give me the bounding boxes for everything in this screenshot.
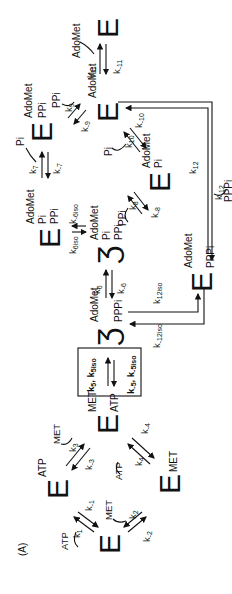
enzyme-iso-adomet-pi-ppi: Ʒ [91, 246, 124, 264]
bound-pi-4: Pi [37, 215, 48, 224]
enzyme-met-atp: E [91, 414, 124, 434]
bound-ppi-4: PPi [49, 208, 60, 224]
arrow-km1 [78, 512, 98, 527]
arrow-km4 [132, 438, 154, 458]
bound-met: MET [168, 451, 179, 472]
panel-label: (A) [17, 543, 28, 556]
km4-label: k-4 [139, 423, 151, 434]
k6-label: k6 [91, 285, 103, 294]
bound-adomet-4: AdoMet [25, 189, 36, 224]
km1-label: k-1 [83, 500, 95, 511]
bound-pi-3: Pi [101, 231, 112, 240]
enzyme-adomet-pi-ppi: E [33, 228, 66, 248]
ligand-atp-1: ATP [59, 532, 70, 550]
enzyme-final: E [91, 18, 124, 38]
km3-label: k-3 [83, 459, 95, 470]
ligand-pi-10: Pi [103, 147, 114, 156]
enzyme-adomet-pi: E [143, 172, 176, 192]
k2-label: k2 [127, 510, 139, 519]
ligand-curve-met-2 [61, 438, 72, 444]
k12-label: k12 [187, 161, 199, 174]
ligand-curve-adomet [80, 42, 94, 54]
k1-label: k1 [71, 529, 83, 538]
enzyme-iso-adomet-pppi: Ʒ [91, 328, 124, 346]
k12iso-label: k12iso [151, 282, 163, 304]
bound-adomet-2: AdoMet [183, 233, 194, 268]
ligand-met-1: MET [103, 500, 114, 520]
ligand-pppi: PPPi [223, 180, 232, 202]
k7-label: k7 [27, 165, 39, 174]
bound-adomet-3: AdoMet [89, 205, 100, 240]
ligand-ppi-8: PPi [117, 210, 128, 226]
bound-pppi-1: PPPi [113, 300, 124, 322]
bound-pppi-2: PPPi [205, 246, 216, 268]
k5-reverse-label: k-5, k-5iso [125, 356, 137, 394]
enzyme-atp: E [41, 479, 74, 499]
k3-label: k3 [67, 443, 79, 452]
enzyme-met: E [153, 474, 186, 494]
kinetic-scheme-diagram: (A) E ATP k1 k-1 E ATP MET k2 k-2 E MET … [0, 0, 232, 594]
ligand-ppi-9: PPi [51, 92, 62, 108]
km6-label: k-6 [115, 283, 127, 294]
km8-label: k-8 [149, 207, 161, 218]
bound-atp: ATP [37, 458, 48, 477]
km9-label: k-9 [79, 121, 91, 132]
k5-forward-label: k5, k5iso [85, 358, 97, 392]
ligand-atp-2: ATP [113, 462, 124, 480]
km12iso-label: k-12iso [151, 324, 163, 348]
ligand-adomet: AdoMet [71, 23, 82, 58]
km11-label: k-11 [111, 60, 123, 74]
bound-adomet-5: AdoMet [141, 133, 152, 168]
km2-label: k-2 [141, 531, 153, 542]
bound-pi-5: Pi [153, 159, 164, 168]
k6iso-label: k6iso [67, 236, 79, 254]
enzyme-adomet: E [91, 102, 124, 122]
k4-label: k4 [133, 457, 145, 466]
arrow-km12iso [130, 288, 204, 324]
bound-met-2: MET [87, 391, 98, 412]
k8-label: k8 [127, 201, 139, 210]
k10-label: k10 [123, 135, 135, 148]
enzyme-adomet-pppi: E [185, 272, 218, 292]
arrow-k12iso [128, 294, 198, 312]
ligand-curve-met [113, 519, 126, 522]
ligand-met-2: MET [51, 424, 62, 444]
km7-label: k-7 [51, 163, 63, 174]
ligand-curve-pi-7 [26, 148, 36, 162]
bound-ppi-6: PPi [37, 102, 48, 118]
bound-adomet-6: AdoMet [23, 83, 34, 118]
enzyme-adomet-ppi: E [25, 122, 58, 142]
km6iso-label: k-6iso [67, 204, 79, 224]
km10-label: k-10 [133, 113, 145, 128]
enzyme-free: E [93, 534, 126, 554]
